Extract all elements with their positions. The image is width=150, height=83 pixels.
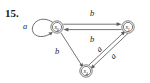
state-s1-subscript: 1 — [128, 27, 130, 32]
edge-label-return-b: b — [90, 34, 94, 44]
edge-label-top-b: b — [90, 8, 94, 18]
edge-return-arrowhead — [63, 28, 68, 32]
edge-label-right-outer-a: a — [108, 51, 118, 61]
figure-container: 15. — [0, 0, 150, 83]
state-node-s0[interactable]: s0 — [51, 21, 63, 33]
automaton-diagram: s0 s1 s4 a b b b a a — [0, 0, 150, 83]
state-s0-subscript: 0 — [57, 27, 59, 32]
edge-label-self-loop-a: a — [23, 21, 27, 31]
edge-label-right-inner-a: a — [94, 44, 104, 54]
edge-left-diagonal-line — [61, 33, 82, 66]
edge-top-arrowhead — [117, 22, 122, 26]
state-node-s4[interactable]: s4 — [80, 65, 92, 77]
state-node-s1[interactable]: s1 — [122, 21, 134, 33]
transition-s0-s0-self-loop — [32, 19, 53, 36]
transition-s0-s4-diagonal — [61, 33, 83, 68]
transition-s1-s0-return — [63, 28, 121, 32]
edge-label-left-diagonal-b: b — [55, 46, 59, 56]
transition-s0-s1-top — [63, 22, 121, 26]
